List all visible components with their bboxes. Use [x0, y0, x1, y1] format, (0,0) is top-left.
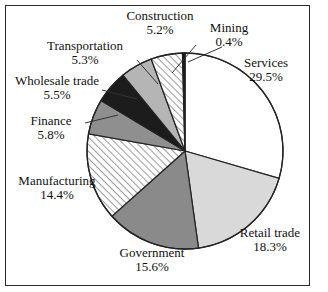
slice-label-mining-name: Mining: [202, 21, 256, 35]
slice-label-retail-trade-name: Retail trade: [230, 226, 310, 240]
slice-label-manufacturing-value: 14.4%: [7, 188, 107, 202]
slice-label-construction-name: Construction: [119, 9, 201, 23]
slice-label-government-name: Government: [107, 246, 197, 260]
slice-label-government: Government 15.6%: [107, 246, 197, 274]
slice-label-retail-trade: Retail trade 18.3%: [230, 226, 310, 254]
slice-label-finance-name: Finance: [20, 114, 82, 128]
slice-label-manufacturing-name: Manufacturing: [7, 174, 107, 188]
slice-label-mining-value: 0.4%: [202, 35, 256, 49]
slice-label-government-value: 15.6%: [107, 260, 197, 274]
slice-label-finance-value: 5.8%: [20, 128, 82, 142]
slice-label-transportation-value: 5.3%: [39, 53, 131, 67]
slice-label-transportation-name: Transportation: [39, 39, 131, 53]
slice-label-finance: Finance 5.8%: [20, 114, 82, 142]
slice-label-services-name: Services: [234, 56, 298, 70]
slice-label-manufacturing: Manufacturing 14.4%: [7, 174, 107, 202]
slice-label-retail-trade-value: 18.3%: [230, 240, 310, 254]
pie-chart-figure: Services 29.5% Retail trade 18.3% Govern…: [0, 0, 328, 292]
slice-label-wholesale-trade-value: 5.5%: [9, 88, 105, 102]
slice-label-construction-value: 5.2%: [119, 23, 201, 37]
slice-label-services-value: 29.5%: [234, 70, 298, 84]
slice-label-services: Services 29.5%: [234, 56, 298, 84]
slice-label-wholesale-trade-name: Wholesale trade: [9, 74, 105, 88]
slice-label-transportation: Transportation 5.3%: [39, 39, 131, 67]
slice-label-mining: Mining 0.4%: [202, 21, 256, 49]
slice-label-construction: Construction 5.2%: [119, 9, 201, 37]
slice-label-wholesale-trade: Wholesale trade 5.5%: [9, 74, 105, 102]
